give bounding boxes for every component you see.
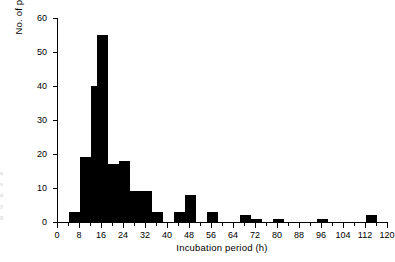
histogram-bar <box>141 191 152 222</box>
histogram-bar <box>240 215 251 222</box>
x-tick <box>387 223 388 228</box>
histogram-bar <box>251 219 262 222</box>
y-tick-label: 10 <box>37 183 47 193</box>
x-tick-minor <box>332 223 333 226</box>
histogram-bar <box>366 215 377 222</box>
x-axis-title: Incubation period (h) <box>57 242 387 253</box>
histogram-bar <box>152 212 163 222</box>
x-tick <box>189 223 190 228</box>
x-tick-minor <box>112 223 113 226</box>
edge-fragment-line: d <box>0 190 7 201</box>
x-tick <box>233 223 234 228</box>
x-tick <box>123 223 124 228</box>
x-tick-label: 112 <box>358 230 372 240</box>
x-tick-minor <box>178 223 179 226</box>
x-tick-minor <box>354 223 355 226</box>
x-tick-label: 56 <box>206 230 216 240</box>
x-tick-minor <box>244 223 245 226</box>
x-tick <box>145 223 146 228</box>
edge-fragment-line: g <box>0 212 7 223</box>
x-tick-label: 32 <box>140 230 150 240</box>
y-tick-label: 30 <box>37 115 47 125</box>
histogram-bar <box>130 191 141 222</box>
x-tick <box>277 223 278 228</box>
histogram-bar <box>80 157 91 222</box>
x-tick-label: 24 <box>118 230 128 240</box>
histogram-bar <box>119 161 130 222</box>
histogram-bars <box>58 18 388 222</box>
y-axis-title: No. of people <box>13 0 24 60</box>
x-tick-minor <box>90 223 91 226</box>
y-tick-label: 0 <box>42 217 47 227</box>
x-tick-label: 104 <box>335 230 350 240</box>
histogram-bar <box>317 219 328 222</box>
x-tick-label: 48 <box>184 230 194 240</box>
histogram-bar <box>97 35 108 222</box>
x-tick <box>57 223 58 228</box>
y-tick-label: 50 <box>37 47 47 57</box>
x-tick <box>167 223 168 228</box>
x-tick-label: 8 <box>76 230 81 240</box>
x-tick-label: 88 <box>294 230 304 240</box>
histogram-bar <box>174 212 185 222</box>
histogram-bar <box>207 212 218 222</box>
edge-fragment-line: s <box>0 168 7 179</box>
x-tick-label: 0 <box>54 230 59 240</box>
histogram-bar <box>69 212 80 222</box>
plot-area: 0102030405060 08162432404856647280889610… <box>57 18 387 222</box>
x-tick-label: 16 <box>96 230 106 240</box>
edge-fragment-line: y <box>0 201 7 212</box>
y-tick-label: 60 <box>37 13 47 23</box>
x-tick <box>343 223 344 228</box>
histogram-bar <box>273 219 284 222</box>
y-tick-label: 40 <box>37 81 47 91</box>
edge-fragment-line: x <box>0 179 7 190</box>
x-tick <box>321 223 322 228</box>
y-tick-label: 20 <box>37 149 47 159</box>
x-tick-label: 64 <box>228 230 238 240</box>
histogram-bar <box>185 195 196 222</box>
x-tick-minor <box>376 223 377 226</box>
cropped-edge-text-fragment: s x d y g <box>0 168 7 240</box>
x-tick-minor <box>222 223 223 226</box>
x-tick-minor <box>156 223 157 226</box>
x-tick-minor <box>200 223 201 226</box>
x-tick-minor <box>68 223 69 226</box>
x-tick-minor <box>134 223 135 226</box>
x-tick <box>255 223 256 228</box>
x-tick-minor <box>288 223 289 226</box>
histogram-figure: s x d y g 0102030405060 0816243240485664… <box>0 0 395 262</box>
histogram-bar <box>108 164 119 222</box>
x-tick <box>365 223 366 228</box>
x-tick-minor <box>310 223 311 226</box>
x-tick-label: 40 <box>162 230 172 240</box>
x-tick <box>299 223 300 228</box>
x-tick-label: 72 <box>250 230 260 240</box>
x-tick-label: 120 <box>379 230 394 240</box>
x-tick-label: 80 <box>272 230 282 240</box>
x-tick <box>211 223 212 228</box>
x-tick <box>79 223 80 228</box>
x-tick-minor <box>266 223 267 226</box>
x-tick <box>101 223 102 228</box>
x-tick-label: 96 <box>316 230 326 240</box>
